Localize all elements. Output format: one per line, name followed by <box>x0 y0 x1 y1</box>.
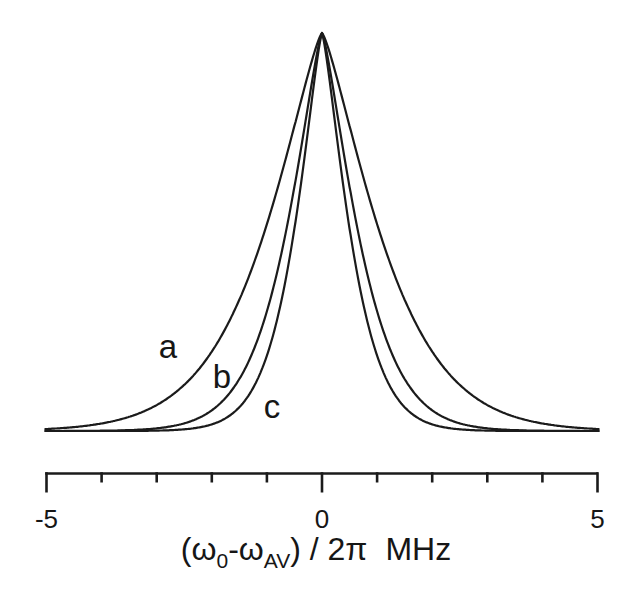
x-axis-label-over-2pi: ) / 2π <box>290 531 367 567</box>
x-tick-label--5: -5 <box>35 504 58 534</box>
curve-label-c: c <box>264 388 281 425</box>
curve-c <box>45 33 598 431</box>
curve-label-b: b <box>213 358 231 395</box>
x-axis-label-subscript-zero: 0 <box>216 549 228 572</box>
x-tick-label-0: 0 <box>315 504 329 534</box>
curve-b <box>45 33 598 431</box>
x-axis-label-open-omega: (ω <box>181 531 217 567</box>
x-axis-tick-labels: -505 <box>35 504 605 534</box>
x-axis-label-minus-omega: -ω <box>228 531 264 567</box>
curve-label-a: a <box>159 328 178 365</box>
x-axis-label: (ω0-ωAV) / 2πMHz <box>181 531 451 572</box>
x-tick-label-5: 5 <box>590 504 604 534</box>
x-axis-label-unit: MHz <box>385 531 451 567</box>
x-axis-ticks <box>47 472 598 492</box>
figure-canvas: a b c -505 (ω0-ωAV) / 2πMHz <box>0 0 632 597</box>
curve-a <box>45 33 598 429</box>
spectral-lineshape-chart: a b c -505 (ω0-ωAV) / 2πMHz <box>0 0 632 597</box>
x-axis-label-subscript-av: AV <box>264 549 290 572</box>
curves-group <box>45 33 598 431</box>
